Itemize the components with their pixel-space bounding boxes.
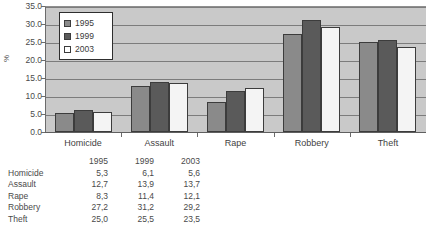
table-cell: 8,3 bbox=[62, 191, 108, 203]
legend-swatch-icon bbox=[64, 46, 71, 53]
x-axis-tick-mark bbox=[350, 133, 351, 137]
table-header-row: 199519992003 bbox=[8, 156, 200, 168]
table-row: Theft25,025,523,5 bbox=[8, 214, 200, 226]
legend-item: 2003 bbox=[64, 43, 107, 55]
bar bbox=[93, 112, 112, 132]
table-cell: 6,1 bbox=[108, 168, 154, 180]
legend-item: 1999 bbox=[64, 30, 107, 42]
x-axis-category-label: Rape bbox=[197, 138, 273, 149]
table-cell: 13,7 bbox=[154, 179, 200, 191]
bar bbox=[150, 82, 169, 132]
y-axis-tick-label: 10.0 bbox=[25, 92, 42, 101]
table-cell: 12,1 bbox=[154, 191, 200, 203]
legend-swatch-icon bbox=[64, 20, 71, 27]
x-axis-category-label: Assault bbox=[121, 138, 197, 149]
table-column-header: 1999 bbox=[108, 156, 154, 168]
table-cell: 31,2 bbox=[108, 202, 154, 214]
table-row-header: Rape bbox=[8, 191, 62, 203]
y-axis-tick-mark bbox=[41, 96, 45, 97]
table-row-header: Theft bbox=[8, 214, 62, 226]
y-axis-tick-mark bbox=[41, 24, 45, 25]
y-axis-tick-label: 20.0 bbox=[25, 56, 42, 65]
table-cell: 25,0 bbox=[62, 214, 108, 226]
bar-group bbox=[350, 6, 426, 132]
bar bbox=[302, 20, 321, 132]
bar-group bbox=[274, 6, 350, 132]
legend-item-label: 1995 bbox=[75, 18, 94, 28]
table-row-header: Assault bbox=[8, 179, 62, 191]
x-axis-tick-mark bbox=[121, 133, 122, 137]
table-row: Rape8,311,412,1 bbox=[8, 191, 200, 203]
bar bbox=[74, 110, 93, 132]
bar bbox=[131, 86, 150, 132]
y-axis-tick-label: 15.0 bbox=[25, 74, 42, 83]
table-row-header: Robbery bbox=[8, 202, 62, 214]
table-cell: 29,2 bbox=[154, 202, 200, 214]
bar bbox=[397, 47, 416, 132]
x-axis-category-label: Homicide bbox=[45, 138, 121, 149]
bar-group bbox=[197, 6, 273, 132]
chart-legend: 199519992003 bbox=[59, 12, 113, 60]
legend-swatch-icon bbox=[64, 33, 71, 40]
bar bbox=[283, 34, 302, 132]
x-axis-tick-mark bbox=[274, 133, 275, 137]
y-axis-tick-mark bbox=[41, 42, 45, 43]
table-row-header: Homicide bbox=[8, 168, 62, 180]
table-row: Robbery27,231,229,2 bbox=[8, 202, 200, 214]
y-axis-tick-labels: 35.030.025.020.015.010.05.00.0 bbox=[8, 2, 42, 132]
table-cell: 11,4 bbox=[108, 191, 154, 203]
x-axis-category-label: Robbery bbox=[274, 138, 350, 149]
table-row: Homicide5,36,15,6 bbox=[8, 168, 200, 180]
y-axis-tick-mark bbox=[41, 114, 45, 115]
y-axis-tick-label: 35.0 bbox=[25, 2, 42, 11]
table-header: 199519992003 bbox=[8, 156, 200, 168]
bar bbox=[245, 88, 264, 132]
bar bbox=[359, 42, 378, 132]
table-cell: 23,5 bbox=[154, 214, 200, 226]
bar-group bbox=[121, 6, 197, 132]
y-axis-tick-mark bbox=[41, 60, 45, 61]
table-column-header: 2003 bbox=[154, 156, 200, 168]
y-axis-tick-mark bbox=[41, 132, 45, 133]
table-body: Homicide5,36,15,6Assault12,713,913,7Rape… bbox=[8, 168, 200, 226]
table-cell: 12,7 bbox=[62, 179, 108, 191]
bar bbox=[321, 27, 340, 132]
legend-item-label: 1999 bbox=[75, 31, 94, 41]
y-axis-tick-label: 25.0 bbox=[25, 38, 42, 47]
table-cell: 25,5 bbox=[108, 214, 154, 226]
table-cell: 5,6 bbox=[154, 168, 200, 180]
table-column-header: 1995 bbox=[62, 156, 108, 168]
y-axis-tick-label: 30.0 bbox=[25, 20, 42, 29]
table-row: Assault12,713,913,7 bbox=[8, 179, 200, 191]
table-cell: 5,3 bbox=[62, 168, 108, 180]
bar bbox=[207, 102, 226, 132]
bar bbox=[378, 40, 397, 132]
legend-item-label: 2003 bbox=[75, 44, 94, 54]
bar bbox=[55, 113, 74, 132]
bar-chart: % 35.030.025.020.015.010.05.00.0 Homicid… bbox=[0, 0, 430, 152]
data-table: 199519992003 Homicide5,36,15,6Assault12,… bbox=[8, 156, 200, 225]
bar bbox=[226, 91, 245, 132]
x-axis-category-labels: HomicideAssaultRapeRobberyTheft bbox=[45, 138, 426, 152]
legend-item: 1995 bbox=[64, 17, 107, 29]
table-cell: 13,9 bbox=[108, 179, 154, 191]
x-axis-tick-mark bbox=[197, 133, 198, 137]
y-axis-tick-mark bbox=[41, 78, 45, 79]
table-cell: 27,2 bbox=[62, 202, 108, 214]
x-axis-line bbox=[45, 132, 426, 133]
table-corner-cell bbox=[8, 156, 62, 168]
y-axis-tick-mark bbox=[41, 6, 45, 7]
bar bbox=[169, 83, 188, 132]
x-axis-category-label: Theft bbox=[350, 138, 426, 149]
